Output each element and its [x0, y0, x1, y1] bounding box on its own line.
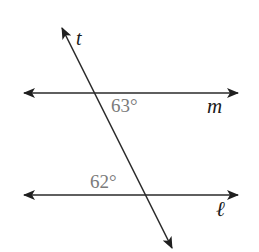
angle-label-63: 63° — [111, 95, 138, 116]
transversal-t — [62, 28, 172, 248]
parallel-lines-diagram: t m ℓ 63° 62° — [0, 0, 259, 252]
label-l: ℓ — [216, 197, 225, 221]
label-t: t — [76, 27, 82, 49]
label-m: m — [207, 94, 222, 118]
angle-label-62: 62° — [90, 171, 117, 192]
